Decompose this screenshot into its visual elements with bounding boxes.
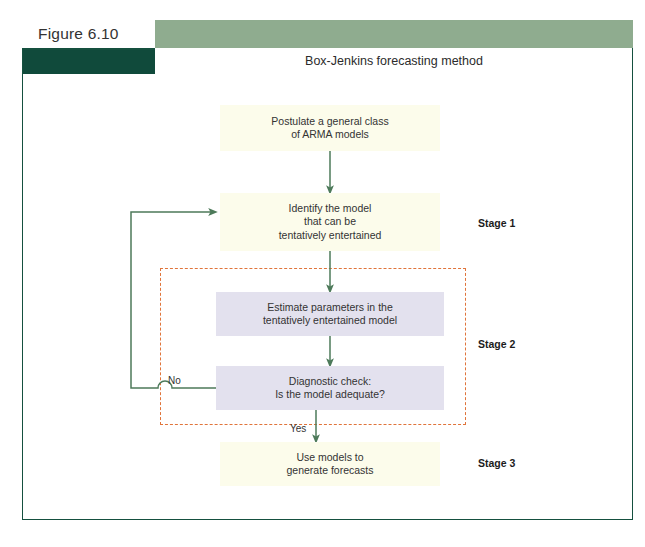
header-dark-block	[22, 48, 155, 74]
node-postulate-line2: of ARMA models	[291, 128, 369, 142]
node-postulate-arma: Postulate a general class of ARMA models	[220, 105, 440, 151]
node-diagnostic-check: Diagnostic check: Is the model adequate?	[216, 366, 444, 410]
node-estimate-line1: Estimate parameters in the	[267, 301, 392, 315]
stage-label-3: Stage 3	[478, 457, 515, 469]
node-usemodels-line2: generate forecasts	[287, 464, 374, 478]
node-identify-line1: Identify the model	[289, 202, 372, 216]
figure-number-label: Figure 6.10	[38, 20, 158, 48]
header-green-banner	[155, 20, 633, 48]
node-identify-line3: tentatively entertained	[279, 229, 382, 243]
figure-canvas: Figure 6.10 Box-Jenkins forecasting meth…	[0, 0, 645, 547]
node-estimate-parameters: Estimate parameters in the tentatively e…	[216, 292, 444, 336]
figure-frame-top-segment	[22, 48, 155, 50]
node-use-models: Use models to generate forecasts	[220, 442, 440, 486]
node-diagnostic-line1: Diagnostic check:	[289, 375, 371, 389]
node-diagnostic-line2: Is the model adequate?	[275, 388, 385, 402]
node-usemodels-line1: Use models to	[296, 451, 363, 465]
node-postulate-line1: Postulate a general class	[271, 115, 388, 129]
stage-label-2: Stage 2	[478, 338, 515, 350]
node-identify-model: Identify the model that can be tentative…	[220, 193, 440, 251]
stage-label-1: Stage 1	[478, 217, 515, 229]
edge-label-no: No	[168, 375, 181, 386]
node-identify-line2: that can be	[304, 215, 356, 229]
node-estimate-line2: tentatively entertained model	[263, 314, 397, 328]
figure-title: Box-Jenkins forecasting method	[155, 48, 633, 74]
edge-label-yes: Yes	[290, 423, 306, 434]
